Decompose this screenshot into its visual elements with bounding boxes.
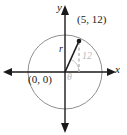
radius-label: r bbox=[59, 44, 63, 54]
point-marker bbox=[77, 39, 82, 44]
radius-segment bbox=[65, 41, 79, 72]
figure-canvas bbox=[0, 0, 127, 135]
x-axis-label: x bbox=[115, 64, 120, 75]
y-axis-arrow-down bbox=[61, 123, 69, 133]
origin-coordinate-label: (0, 0) bbox=[28, 74, 52, 85]
x-axis-arrow-left bbox=[3, 68, 12, 76]
y-axis-arrow-up bbox=[61, 5, 69, 15]
angle-theta-label: θ bbox=[67, 72, 72, 82]
coordinate-plane-figure: y x (5, 12) (0, 0) r 12 θ bbox=[0, 0, 127, 135]
x-axis bbox=[3, 68, 116, 76]
y-axis bbox=[61, 5, 69, 133]
y-axis-label: y bbox=[57, 2, 62, 13]
vertical-leg-label: 12 bbox=[82, 51, 92, 61]
point-coordinate-label: (5, 12) bbox=[77, 14, 106, 25]
